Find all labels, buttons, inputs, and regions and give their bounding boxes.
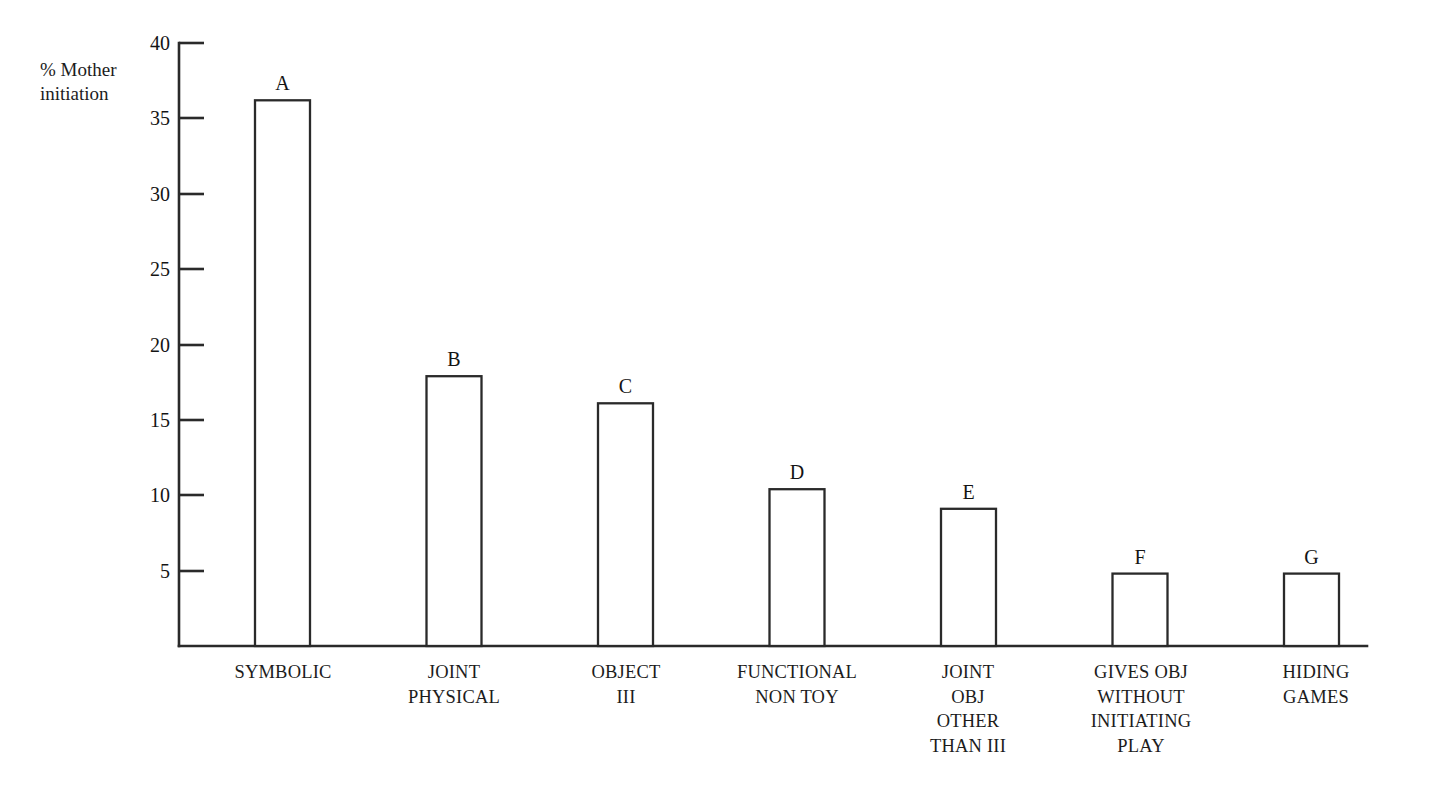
bar-letter-b: B bbox=[447, 348, 460, 370]
bar-letter-g: G bbox=[1304, 546, 1318, 568]
category-label-gives-obj-without-initiating-play: GIVES OBJ WITHOUT INITIATING PLAY bbox=[1046, 660, 1236, 758]
y-tick-label-40: 40 bbox=[150, 32, 170, 54]
y-tick-label-20: 20 bbox=[150, 334, 170, 356]
y-axis-ticks bbox=[179, 43, 204, 571]
category-label-symbolic: SYMBOLIC bbox=[198, 660, 368, 685]
category-label-object-iii: OBJECT III bbox=[541, 660, 711, 709]
bars-group bbox=[255, 100, 1339, 646]
y-tick-label-5: 5 bbox=[160, 560, 170, 582]
bar-letter-d: D bbox=[790, 461, 804, 483]
y-tick-label-10: 10 bbox=[150, 484, 170, 506]
bar-letter-c: C bbox=[619, 375, 632, 397]
category-label-joint-obj-other-than-iii: JOINT OBJ OTHER THAN III bbox=[883, 660, 1053, 758]
bar-d[interactable] bbox=[770, 489, 825, 646]
y-tick-label-25: 25 bbox=[150, 258, 170, 280]
bar-f[interactable] bbox=[1113, 574, 1168, 646]
bar-g[interactable] bbox=[1284, 574, 1339, 646]
bar-c[interactable] bbox=[598, 403, 653, 646]
y-tick-label-35: 35 bbox=[150, 107, 170, 129]
y-axis-tick-labels: 40 35 30 25 20 15 10 5 bbox=[150, 32, 170, 582]
category-label-joint-physical: JOINT PHYSICAL bbox=[369, 660, 539, 709]
category-label-hiding-games: HIDING GAMES bbox=[1231, 660, 1401, 709]
y-tick-label-30: 30 bbox=[150, 183, 170, 205]
y-tick-label-15: 15 bbox=[150, 409, 170, 431]
bar-letter-a: A bbox=[275, 72, 290, 94]
chart-page: % Mother initiation 40 35 30 25 20 15 10… bbox=[0, 0, 1438, 795]
bar-a[interactable] bbox=[255, 100, 310, 646]
bar-e[interactable] bbox=[941, 509, 996, 646]
bar-b[interactable] bbox=[427, 376, 482, 646]
bar-letter-e: E bbox=[962, 481, 974, 503]
bar-letter-f: F bbox=[1134, 546, 1145, 568]
category-label-functional-non-toy: FUNCTIONAL NON TOY bbox=[712, 660, 882, 709]
